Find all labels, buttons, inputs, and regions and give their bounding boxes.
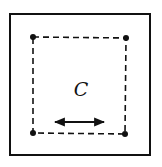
corner-point-bottom-left (30, 130, 36, 136)
corner-point-top-right (123, 35, 129, 41)
diagram-canvas: C (0, 0, 162, 167)
corner-point-bottom-right (122, 131, 128, 137)
corner-point-top-left (30, 34, 36, 40)
region-label: C (74, 78, 89, 100)
